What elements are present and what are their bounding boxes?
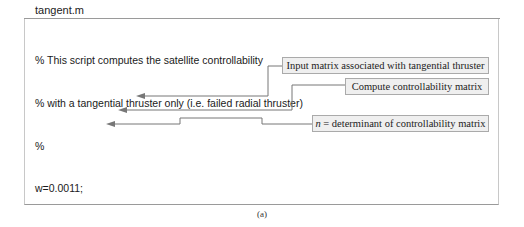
arrow-line-controllability — [124, 85, 345, 110]
arrowhead-icon — [106, 121, 115, 127]
callout-input-matrix: Input matrix associated with tangential … — [282, 57, 489, 74]
arrowhead-icon — [136, 93, 145, 99]
arrowhead-icon — [118, 107, 127, 113]
arrow-line-input-matrix — [142, 66, 282, 96]
callout-compute-controllability: Compute controllability matrix — [345, 78, 489, 95]
callout-text: Compute controllability matrix — [352, 81, 483, 92]
figure-caption: (a) — [0, 209, 524, 219]
callout-connectors — [0, 0, 524, 227]
callout-determinant: n = determinant of controllability matri… — [312, 115, 489, 132]
arrow-line-determinant — [112, 118, 312, 124]
callout-text: = determinant of controllability matrix — [321, 118, 486, 129]
callout-text: Input matrix associated with tangential … — [287, 60, 485, 71]
